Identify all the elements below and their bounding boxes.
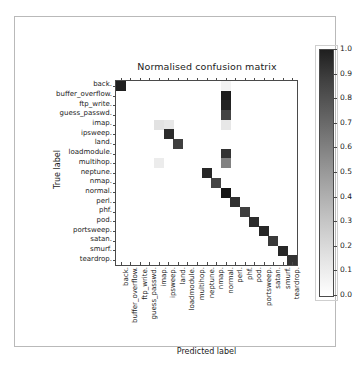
y-tick-label: phf.: [16, 207, 112, 214]
x-tick-mark-bottom: [226, 262, 227, 265]
colorbar-tick-mark: [334, 98, 337, 99]
y-axis-title: True label: [53, 150, 62, 189]
x-tick-label: smurf.: [285, 267, 292, 289]
x-tick-mark-bottom: [159, 262, 160, 265]
x-tick-mark: [235, 78, 236, 81]
x-tick-mark: [121, 78, 122, 81]
colorbar-tick-label: 0.5: [340, 168, 352, 175]
x-tick-mark: [207, 78, 208, 81]
y-tick-label: smurf.: [16, 246, 112, 253]
x-tick-mark: [159, 78, 160, 81]
heatmap-cell: [221, 91, 231, 101]
x-tick-mark-bottom: [130, 262, 131, 265]
heatmap-cell: [221, 158, 231, 168]
y-tick-mark: [113, 125, 116, 126]
x-tick-mark-bottom: [235, 262, 236, 265]
y-tick-label: ftp_write.: [16, 101, 112, 108]
x-tick-mark: [168, 78, 169, 81]
y-tick-mark: [113, 163, 116, 164]
y-tick-mark: [113, 192, 116, 193]
heatmap-cell: [154, 158, 164, 168]
colorbar-tick-mark: [334, 147, 337, 148]
x-tick-mark-bottom: [216, 262, 217, 265]
y-tick-mark: [113, 96, 116, 97]
y-tick-mark: [113, 260, 116, 261]
x-tick-mark-bottom: [245, 262, 246, 265]
y-tick-mark: [113, 86, 116, 87]
heatmap-cell: [249, 217, 259, 227]
x-tick-label: portsweep.: [266, 267, 273, 306]
y-tick-label: nmap.: [16, 178, 112, 185]
colorbar-tick-mark: [334, 221, 337, 222]
x-tick-mark-bottom: [121, 262, 122, 265]
x-tick-mark-bottom: [168, 262, 169, 265]
x-tick-mark: [273, 78, 274, 81]
y-tick-mark: [113, 115, 116, 116]
x-tick-mark-bottom: [292, 262, 293, 265]
heatmap-cell: [221, 100, 231, 110]
colorbar-tick-mark: [334, 74, 337, 75]
colorbar-tick-mark: [334, 197, 337, 198]
x-tick-mark-bottom: [187, 262, 188, 265]
y-axis-tick-labels: back.buffer_overflow.ftp_write.guess_pas…: [15, 80, 112, 266]
y-tick-label: buffer_overflow.: [16, 91, 112, 98]
x-tick-mark-bottom: [254, 262, 255, 265]
y-tick-mark: [113, 183, 116, 184]
colorbar-tick-mark: [334, 295, 337, 296]
heatmap-cell: [221, 188, 231, 198]
x-axis-tick-labels: back.buffer_overflow.ftp_write.guess_pas…: [115, 267, 298, 339]
x-tick-label: ipsweep.: [170, 267, 177, 298]
x-tick-label: imap.: [161, 267, 168, 287]
x-tick-mark-bottom: [140, 262, 141, 265]
heatmap-cell: [221, 149, 231, 159]
y-tick-label: perl.: [16, 198, 112, 205]
heatmap-cell: [164, 120, 174, 130]
figure-panel: Normalised confusion matrix back.buffer_…: [14, 16, 336, 347]
y-tick-label: multihop.: [16, 159, 112, 166]
x-tick-mark: [178, 78, 179, 81]
heatmap-cell: [116, 81, 126, 91]
y-tick-mark: [113, 105, 116, 106]
x-tick-mark-bottom: [207, 262, 208, 265]
heatmap-cell: [230, 197, 240, 207]
y-tick-label: satan.: [16, 236, 112, 243]
y-tick-label: loadmodule.: [16, 149, 112, 156]
y-tick-mark: [113, 241, 116, 242]
colorbar-tick-label: 1.0: [340, 45, 352, 52]
colorbar-tick-mark: [334, 172, 337, 173]
x-tick-label: land.: [180, 267, 187, 284]
x-tick-mark: [216, 78, 217, 81]
x-tick-label: perl.: [237, 267, 244, 283]
x-tick-label: neptune.: [209, 267, 216, 298]
x-tick-mark-bottom: [273, 262, 274, 265]
page-title: Normalised confusion matrix: [115, 61, 299, 72]
heatmap-cell: [268, 236, 278, 246]
y-tick-label: portsweep.: [16, 227, 112, 234]
x-tick-mark: [140, 78, 141, 81]
heatmap-cell: [259, 226, 269, 236]
heatmap-cell: [164, 129, 174, 139]
x-tick-mark-bottom: [197, 262, 198, 265]
y-tick-label: imap.: [16, 120, 112, 127]
x-tick-label: pod.: [256, 267, 263, 282]
heatmap-cell: [211, 178, 221, 188]
x-tick-mark: [254, 78, 255, 81]
x-tick-label: back.: [123, 267, 130, 286]
x-tick-label: satan.: [275, 267, 282, 289]
colorbar-tick-label: 0.2: [340, 242, 352, 249]
x-tick-mark: [149, 78, 150, 81]
x-tick-label: ftp_write.: [142, 267, 149, 300]
heatmap-cell: [202, 168, 212, 178]
x-tick-label: nmap.: [218, 267, 225, 289]
colorbar-tick-label: 0.4: [340, 193, 352, 200]
x-tick-mark: [187, 78, 188, 81]
heatmap-cell: [154, 120, 164, 130]
colorbar-tick-labels: 1.00.90.80.70.60.50.40.30.20.10.0: [319, 49, 357, 297]
x-tick-mark: [226, 78, 227, 81]
y-tick-mark: [113, 231, 116, 232]
x-tick-mark: [130, 78, 131, 81]
y-tick-label: ipsweep.: [16, 130, 112, 137]
heatmap-axes: [115, 80, 298, 266]
x-tick-mark-bottom: [149, 262, 150, 265]
heatmap-cell: [173, 139, 183, 149]
